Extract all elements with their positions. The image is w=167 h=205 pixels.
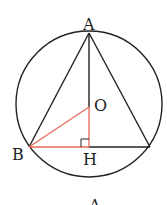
label-H: H (83, 150, 97, 169)
segment-BO (29, 107, 89, 147)
label-O: O (94, 96, 107, 115)
segment-AB (29, 33, 89, 147)
label-A: A (82, 15, 95, 34)
bottom-caption-label: A (88, 196, 101, 205)
label-B: B (12, 145, 24, 164)
right-angle-mark (81, 139, 89, 147)
segment-AC (89, 33, 150, 147)
geometry-diagram: A O B H A (0, 0, 167, 205)
